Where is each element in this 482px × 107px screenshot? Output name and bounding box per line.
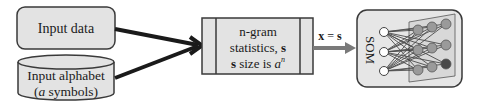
input-alphabet-cylinder: Input alphabet (a symbols): [18, 55, 114, 100]
som-output-nodes: [413, 19, 451, 75]
input-alphabet-line2: (a symbols): [34, 84, 98, 99]
ngram-line3: s size is an: [231, 55, 285, 71]
som-label: SOM: [363, 36, 378, 65]
input-alphabet-line1: Input alphabet: [27, 68, 105, 83]
ngram-statistics-box: n-gram statistics, s s size is an: [202, 18, 313, 74]
arrow-input-data-to-ngram: [115, 29, 198, 45]
ngram-line2: statistics, s: [230, 40, 286, 55]
input-data-label: Input data: [38, 21, 95, 36]
som-input-nodes: [380, 28, 389, 76]
edge-label-x-equals-s: x = s: [318, 29, 342, 43]
som-box: SOM: [357, 10, 462, 87]
input-data-box: Input data: [17, 7, 115, 49]
arrowhead-gray-icon: [345, 42, 356, 54]
arrow-alphabet-to-ngram: [115, 46, 198, 78]
ngram-som-diagram: Input data Input alphabet (a symbols) n-…: [0, 0, 482, 107]
ngram-line1: n-gram: [239, 24, 277, 39]
